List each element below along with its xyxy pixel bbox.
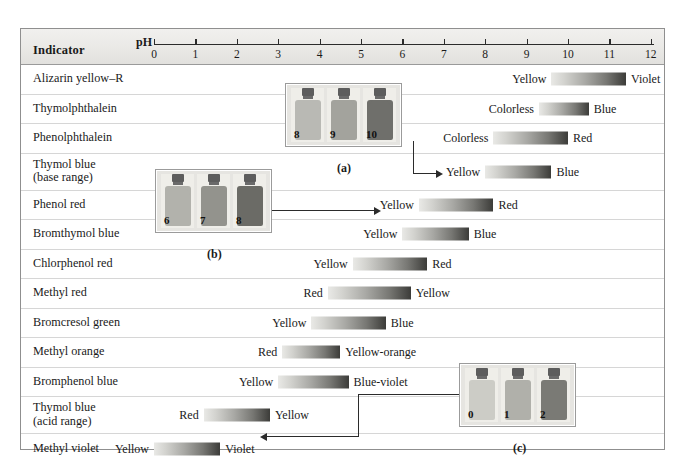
base-color-label: Blue	[594, 101, 617, 116]
ph-axis-line	[154, 44, 654, 45]
ph-tick-10	[568, 39, 569, 45]
bottle-ph-number: 7	[200, 214, 206, 226]
color-transition-bar	[402, 228, 468, 241]
color-range-group: RedYellow-orange	[282, 346, 416, 359]
color-range-group: RedYellow	[204, 409, 309, 422]
acid-color-label: Yellow	[115, 441, 149, 456]
ph-tick-6	[402, 39, 403, 45]
acid-color-label: Yellow	[446, 164, 480, 179]
base-color-label: Yellow	[275, 408, 309, 423]
connector-c-vertical	[358, 394, 359, 437]
bottle-cap-icon	[374, 88, 386, 96]
bottle-cell: 8	[291, 88, 324, 142]
bottle-cell: 9	[327, 88, 360, 142]
connector-c-horizontal-top	[358, 394, 460, 395]
bottle-cell: 0	[465, 368, 498, 422]
chart-header-band: Indicator pH 0123456789101112	[21, 29, 664, 65]
color-range-group: YellowBlue	[402, 228, 496, 241]
ph-tick-1	[195, 39, 196, 45]
connector-b-horizontal	[270, 210, 376, 211]
ph-tick-3	[278, 39, 279, 45]
indicator-column-header: Indicator	[33, 43, 85, 58]
ph-tick-9	[527, 39, 528, 45]
indicator-name: Bromthymol blue	[33, 227, 119, 241]
color-range-group: ColorlessRed	[493, 132, 592, 145]
acid-color-label: Red	[179, 408, 198, 423]
indicator-name: Thymolphthalein	[33, 102, 117, 116]
ph-tick-8	[485, 39, 486, 45]
indicator-name: Bromcresol green	[33, 316, 120, 330]
ph-tick-label-10: 10	[562, 48, 574, 60]
indicator-row: Methyl redRedYellow	[21, 279, 664, 309]
ph-tick-11	[609, 39, 610, 45]
ph-tick-label-7: 7	[441, 48, 447, 60]
photo-inset-a: 8910	[285, 83, 402, 147]
bottle-cap-icon	[172, 174, 184, 182]
connector-b-arrowhead	[374, 207, 381, 215]
indicator-name: Phenolphthalein	[33, 131, 112, 145]
indicator-name: Bromphenol blue	[33, 375, 118, 389]
ph-tick-label-5: 5	[358, 48, 364, 60]
ph-tick-label-12: 12	[645, 48, 657, 60]
acid-color-label: Yellow	[512, 72, 546, 87]
color-range-group: YellowBlue-violet	[278, 375, 407, 388]
color-transition-bar	[204, 409, 270, 422]
acid-color-label: Colorless	[443, 131, 488, 146]
acid-color-label: Yellow	[363, 227, 397, 242]
bottle-ph-number: 0	[468, 408, 474, 420]
ph-axis-label: pH	[136, 35, 152, 50]
indicator-row: Methyl violetYellowViolet	[21, 434, 664, 458]
connector-c-arrowhead	[260, 433, 267, 441]
color-range-group: YellowBlue	[311, 316, 413, 329]
color-range-group: YellowRed	[353, 257, 452, 270]
acid-color-label: Yellow	[239, 374, 273, 389]
indicator-name: Chlorphenol red	[33, 257, 113, 271]
bottle-cap-icon	[302, 88, 314, 96]
bottle-ph-number: 9	[330, 128, 336, 140]
color-transition-bar	[493, 132, 568, 145]
bottle-cell: 10	[363, 88, 396, 142]
photo-inset-b: 678	[155, 169, 272, 233]
color-range-group: YellowViolet	[551, 73, 660, 86]
ph-tick-label-0: 0	[151, 48, 157, 60]
bottle-cap-icon	[476, 368, 488, 376]
color-transition-bar	[419, 198, 494, 211]
indicator-row: Bromthymol blueYellowBlue	[21, 220, 664, 250]
bottle-cell: 6	[161, 174, 194, 228]
base-color-label: Red	[498, 197, 517, 212]
base-color-label: Blue-violet	[354, 374, 408, 389]
connector-a-vertical	[413, 141, 414, 174]
color-transition-bar	[311, 316, 386, 329]
color-range-group: YellowRed	[419, 198, 518, 211]
photo-inset-c-caption: (c)	[513, 441, 526, 456]
ph-tick-label-3: 3	[275, 48, 281, 60]
ph-tick-label-6: 6	[400, 48, 406, 60]
acid-color-label: Red	[258, 345, 277, 360]
ph-tick-label-9: 9	[524, 48, 530, 60]
bottle-cell: 2	[537, 368, 570, 422]
base-color-label: Yellow-orange	[345, 345, 416, 360]
photo-inset-c: 012	[459, 363, 576, 427]
bottle-cap-icon	[338, 88, 350, 96]
color-transition-bar	[539, 102, 589, 115]
connector-a-horizontal	[413, 173, 438, 174]
color-range-group: ColorlessBlue	[539, 102, 616, 115]
color-transition-bar	[485, 165, 551, 178]
ph-tick-7	[444, 39, 445, 45]
ph-tick-12	[651, 39, 652, 45]
indicator-ph-chart: Indicator pH 0123456789101112 Alizarin y…	[20, 28, 665, 450]
color-transition-bar	[551, 73, 626, 86]
bottle-cap-icon	[512, 368, 524, 376]
color-range-group: RedYellow	[328, 287, 450, 300]
indicator-name: Thymol blue (base range)	[33, 158, 96, 185]
color-transition-bar	[282, 346, 340, 359]
bottle-cap-icon	[208, 174, 220, 182]
bottle-ph-number: 2	[540, 408, 546, 420]
bottle-ph-number: 10	[366, 128, 377, 140]
bottle-cell: 8	[233, 174, 266, 228]
bottle-cap-icon	[548, 368, 560, 376]
indicator-name: Thymol blue (acid range)	[33, 401, 96, 428]
ph-tick-5	[361, 39, 362, 45]
indicator-name: Methyl red	[33, 286, 87, 300]
acid-color-label: Red	[304, 286, 323, 301]
